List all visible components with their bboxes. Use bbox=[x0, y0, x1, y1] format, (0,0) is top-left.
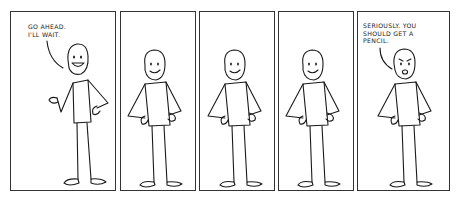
head bbox=[68, 44, 88, 74]
arm-left bbox=[208, 84, 225, 118]
arm-left bbox=[57, 83, 73, 112]
comic-panel-1: GO AHEAD. I'LL WAIT. bbox=[10, 11, 116, 191]
leg-left bbox=[402, 126, 404, 182]
leg-right bbox=[164, 126, 167, 182]
comic-panel-4 bbox=[278, 11, 354, 191]
arm-left bbox=[378, 84, 395, 118]
eye-right bbox=[315, 63, 317, 66]
eye-right bbox=[237, 63, 239, 66]
foot-right bbox=[417, 182, 432, 187]
stick-figure bbox=[358, 12, 451, 192]
leg-left bbox=[152, 126, 154, 182]
hand-left bbox=[391, 116, 398, 124]
head bbox=[225, 50, 245, 80]
eye-left bbox=[400, 63, 402, 66]
foot-right bbox=[91, 179, 106, 184]
brow-right bbox=[407, 59, 411, 61]
arm-left bbox=[128, 84, 145, 118]
speech-tail bbox=[47, 41, 63, 68]
foot-right bbox=[167, 182, 182, 187]
eye-right bbox=[408, 63, 410, 66]
mouth-grin bbox=[72, 63, 84, 67]
stick-figure bbox=[279, 12, 355, 192]
foot-right bbox=[247, 182, 262, 187]
stick-figure bbox=[200, 12, 276, 192]
head bbox=[145, 50, 165, 80]
eye-left bbox=[308, 63, 310, 66]
leg-left bbox=[77, 123, 78, 179]
torso bbox=[225, 82, 250, 126]
foot-left bbox=[140, 181, 155, 187]
speech-tail bbox=[380, 48, 392, 69]
eye-right bbox=[80, 55, 82, 58]
comic-panel-5: SERIOUSLY. YOU SHOULD GET A PENCIL. bbox=[357, 11, 450, 191]
mouth-open bbox=[402, 70, 407, 74]
head bbox=[303, 50, 323, 80]
leg-left bbox=[310, 126, 312, 182]
comic-panel-2 bbox=[120, 11, 196, 191]
comic-panel-3 bbox=[199, 11, 275, 191]
foot-left bbox=[220, 181, 235, 187]
arm-left bbox=[286, 84, 303, 118]
brow-left bbox=[399, 59, 403, 61]
mouth-smile bbox=[230, 70, 240, 73]
eye-right bbox=[157, 63, 159, 66]
eye-left bbox=[73, 55, 75, 58]
torso bbox=[395, 82, 420, 126]
torso bbox=[303, 82, 328, 126]
hand-left bbox=[221, 116, 228, 124]
leg-right bbox=[414, 126, 417, 182]
leg-right bbox=[322, 126, 325, 182]
foot-left bbox=[64, 179, 79, 185]
mouth-smile bbox=[150, 70, 160, 73]
torso bbox=[145, 82, 170, 126]
leg-left bbox=[232, 126, 234, 182]
torso bbox=[73, 80, 91, 123]
hand-left bbox=[141, 116, 148, 124]
eye-left bbox=[230, 63, 232, 66]
stick-figure bbox=[11, 12, 117, 192]
foot-left bbox=[298, 181, 313, 187]
leg-right bbox=[87, 123, 91, 179]
hand-left bbox=[299, 116, 306, 124]
hand-left bbox=[49, 97, 58, 103]
stick-figure bbox=[121, 12, 197, 192]
eye-left bbox=[150, 63, 152, 66]
arm-right bbox=[88, 80, 108, 108]
mouth-smile bbox=[308, 70, 318, 73]
leg-right bbox=[244, 126, 247, 182]
foot-right bbox=[325, 182, 340, 187]
foot-left bbox=[390, 181, 405, 187]
comic-strip: GO AHEAD. I'LL WAIT. bbox=[0, 0, 460, 202]
